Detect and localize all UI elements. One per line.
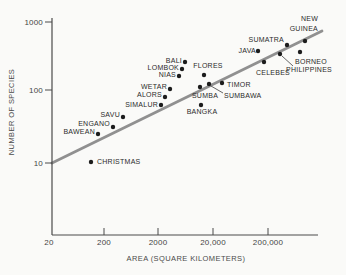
island-label-flores: FLORES (193, 61, 223, 71)
data-point-java (256, 49, 260, 53)
data-point-sumatra (285, 43, 289, 47)
island-label-bali: BALI (166, 56, 182, 66)
x-axis-title: AREA (SQUARE KILOMETERS) (127, 254, 246, 263)
island-label-wetar: WETAR (141, 82, 167, 92)
y-tick-label-10: 10 (34, 159, 43, 168)
island-label-savu: SAVU (100, 110, 120, 120)
island-label-timor: TIMOR (227, 80, 251, 90)
data-point-simalur (159, 103, 163, 107)
trend-line (52, 31, 322, 163)
x-tick-label-20: 20 (44, 238, 53, 247)
x-tick-label-200,000: 200,000 (253, 238, 283, 247)
data-point-philippines (278, 52, 282, 56)
y-axis-title: NUMBER OF SPECIES (7, 69, 16, 155)
data-point-savu (121, 115, 125, 119)
island-label-bangka: BANGKA (187, 107, 218, 117)
data-point-engano (111, 125, 115, 129)
data-point-bawean (96, 132, 100, 136)
data-point-celebes (262, 60, 266, 64)
island-label-java: JAVA (239, 46, 256, 56)
data-point-borneo (298, 50, 302, 54)
island-label-new-guinea: NEWGUINEA (290, 14, 318, 33)
y-tick-label-100: 100 (29, 86, 43, 95)
data-point-new-guinea (303, 39, 307, 43)
data-point-wetar (168, 87, 172, 91)
x-tick-label-20,000: 20,000 (200, 238, 226, 247)
data-point-nias (177, 74, 181, 78)
data-point-christmas (89, 160, 93, 164)
y-tick-label-1000: 1000 (24, 18, 43, 27)
x-tick-label-2000: 2000 (149, 238, 168, 247)
island-label-simalur: SIMALUR (125, 100, 158, 110)
island-label-celebes: CELEBES (256, 68, 290, 78)
data-point-lombok (180, 67, 184, 71)
island-label-sumatra: SUMATRA (249, 35, 284, 45)
data-point-sumbawa (207, 82, 211, 86)
data-point-bali (183, 60, 187, 64)
data-point-timor (220, 81, 224, 85)
chart-canvas (0, 0, 346, 275)
island-label-sumbawa: SUMBAWA (224, 91, 261, 101)
x-tick-label-200: 200 (97, 238, 111, 247)
species-area-chart: NUMBER OF SPECIES AREA (SQUARE KILOMETER… (0, 0, 346, 275)
island-label-borneo: BORNEO (295, 57, 327, 67)
data-point-alors (163, 95, 167, 99)
island-label-christmas: CHRISTMAS (97, 157, 140, 167)
data-point-sumba (198, 85, 202, 89)
data-point-flores (202, 73, 206, 77)
island-label-sumba: SUMBA (192, 91, 218, 101)
island-label-engano: ENGANO (78, 119, 110, 129)
